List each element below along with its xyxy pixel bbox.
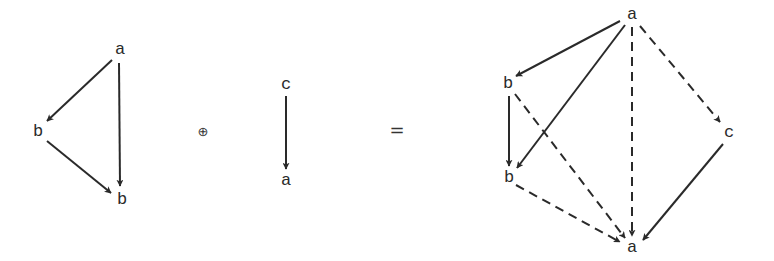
solid-edge-R_c-to-R_a_bot bbox=[643, 144, 723, 240]
solid-edge-L_a-to-L_b1 bbox=[47, 60, 112, 121]
dashed-edge-R_b_bot-to-R_a_bot bbox=[516, 185, 620, 242]
direct-sum-operator: ⊕ bbox=[198, 125, 209, 138]
node-label-R_a_top: a bbox=[627, 6, 637, 23]
edges-layer bbox=[47, 21, 723, 242]
dashed-edge-R_b_top-to-R_a_bot bbox=[515, 94, 625, 238]
solid-edge-L_b1-to-L_b2 bbox=[47, 141, 111, 193]
node-label-R_c: c bbox=[724, 124, 734, 141]
solid-edge-L_a-to-L_b2 bbox=[119, 63, 120, 186]
solid-edge-R_a_top-to-R_b_top bbox=[516, 21, 620, 76]
right-graph bbox=[509, 21, 723, 242]
node-label-M_c: c bbox=[281, 76, 291, 93]
node-label-M_a: a bbox=[281, 172, 291, 189]
node-label-R_a_bot: a bbox=[627, 239, 637, 256]
node-label-L_b1: b bbox=[33, 123, 43, 140]
node-label-R_b_bot: b bbox=[504, 169, 514, 186]
node-label-R_b_top: b bbox=[503, 75, 513, 92]
equals-operator: = bbox=[389, 121, 404, 139]
left-graph bbox=[47, 60, 120, 193]
dashed-edge-R_a_top-to-R_c bbox=[640, 26, 720, 122]
node-label-L_a: a bbox=[115, 41, 125, 58]
node-label-L_b2: b bbox=[117, 191, 127, 208]
